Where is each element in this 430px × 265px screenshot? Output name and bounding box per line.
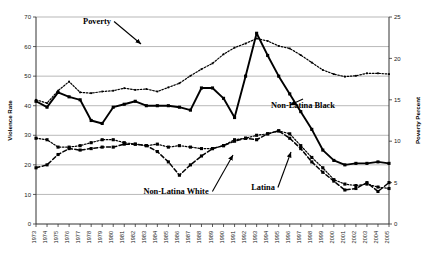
plot-area	[36, 17, 389, 224]
y-tick-label-right: 10	[394, 138, 401, 144]
series-marker-non-latina-white	[387, 187, 390, 190]
series-marker-non-latina-black	[90, 119, 93, 122]
x-tick-label: 1974	[42, 231, 48, 243]
x-tick-label: 1983	[141, 231, 147, 243]
x-tick-label: 1995	[274, 231, 280, 243]
x-tick-label: 1993	[252, 231, 258, 243]
x-tick-label: 2003	[362, 231, 368, 243]
x-tick-label: 1999	[318, 231, 324, 243]
x-tick-label: 1977	[75, 231, 81, 243]
x-tick-label: 2002	[351, 231, 357, 243]
series-marker-poverty	[355, 75, 357, 77]
series-marker-latina	[321, 171, 324, 174]
series-marker-non-latina-white	[255, 134, 258, 137]
series-marker-non-latina-black	[376, 160, 379, 163]
series-marker-non-latina-black	[332, 159, 335, 162]
y-tick-label-right: 5	[394, 180, 398, 186]
x-tick-label: 1994	[263, 231, 269, 243]
series-marker-latina	[178, 174, 181, 177]
series-marker-latina	[145, 144, 148, 147]
series-marker-non-latina-black	[343, 163, 346, 166]
y-tick-label-left: 20	[24, 162, 31, 168]
series-marker-non-latina-black	[211, 86, 214, 89]
y-tick-label-left: 10	[24, 192, 31, 198]
series-marker-latina	[112, 146, 115, 149]
series-marker-poverty	[212, 62, 214, 64]
series-marker-non-latina-black	[123, 103, 126, 106]
series-marker-latina	[211, 147, 214, 150]
series-marker-non-latina-black	[79, 98, 82, 101]
series-marker-poverty	[68, 81, 70, 83]
series-marker-poverty	[167, 86, 169, 88]
series-marker-latina	[365, 181, 368, 184]
series-marker-poverty	[278, 45, 280, 47]
x-tick-label: 2001	[340, 231, 346, 243]
series-marker-latina	[200, 154, 203, 157]
x-tick-label: 1988	[196, 231, 202, 243]
series-marker-non-latina-white	[79, 144, 82, 147]
series-marker-non-latina-black	[288, 92, 291, 95]
series-marker-non-latina-black	[233, 116, 236, 119]
annotation-label-non-latina-white: Non-Latina White	[143, 187, 209, 196]
series-marker-poverty	[46, 102, 48, 104]
series-marker-poverty	[289, 48, 291, 50]
x-tick-label: 1980	[108, 231, 114, 243]
series-marker-non-latina-black	[68, 95, 71, 98]
series-marker-poverty	[267, 40, 269, 42]
series-marker-non-latina-black	[200, 86, 203, 89]
series-marker-non-latina-white	[57, 146, 60, 149]
series-marker-non-latina-black	[277, 75, 280, 78]
series-marker-latina	[233, 140, 236, 143]
series-marker-poverty	[156, 91, 158, 93]
series-marker-latina	[45, 163, 48, 166]
series-marker-latina	[343, 188, 346, 191]
y-tick-label-right: 15	[394, 97, 401, 103]
series-marker-non-latina-white	[167, 146, 170, 149]
y-axis-title-right: Poverty Percent	[414, 97, 421, 144]
series-marker-latina	[189, 163, 192, 166]
x-tick-label: 1979	[97, 231, 103, 243]
series-marker-non-latina-black	[101, 122, 104, 125]
series-marker-non-latina-black	[255, 32, 258, 35]
x-tick-label: 2000	[329, 231, 335, 243]
series-marker-latina	[387, 181, 390, 184]
chart-canvas: 0102030405060700510152025197319741975197…	[0, 0, 430, 265]
x-tick-label: 1981	[119, 231, 125, 243]
series-marker-non-latina-black	[354, 162, 357, 165]
series-marker-latina	[299, 147, 302, 150]
series-marker-non-latina-black	[34, 100, 37, 103]
series-marker-latina	[123, 143, 126, 146]
violence-rate-poverty-chart: 0102030405060700510152025197319741975197…	[0, 0, 430, 265]
series-marker-non-latina-black	[178, 106, 181, 109]
series-marker-non-latina-black	[145, 104, 148, 107]
series-marker-latina	[332, 180, 335, 183]
series-marker-non-latina-black	[112, 106, 115, 109]
series-marker-latina	[79, 149, 82, 152]
series-marker-non-latina-white	[354, 184, 357, 187]
x-tick-label: 1986	[174, 231, 180, 243]
series-marker-non-latina-white	[310, 156, 313, 159]
y-tick-label-left: 50	[24, 73, 31, 79]
series-marker-latina	[34, 166, 37, 169]
series-marker-poverty	[134, 89, 136, 91]
series-marker-non-latina-white	[189, 146, 192, 149]
y-tick-label-left: 40	[24, 103, 31, 109]
series-marker-latina	[376, 190, 379, 193]
x-tick-label: 1992	[241, 231, 247, 243]
series-marker-non-latina-white	[112, 138, 115, 141]
series-marker-poverty	[311, 62, 313, 64]
series-marker-poverty	[112, 90, 114, 92]
series-marker-non-latina-black	[299, 110, 302, 113]
x-tick-label: 1989	[208, 231, 214, 243]
series-marker-poverty	[90, 92, 92, 94]
series-marker-poverty	[79, 91, 81, 93]
series-marker-latina	[255, 138, 258, 141]
x-tick-label: 2004	[373, 231, 379, 243]
annotation-label-poverty: Poverty	[83, 17, 112, 26]
x-tick-label: 1987	[185, 231, 191, 243]
series-marker-poverty	[145, 88, 147, 90]
series-marker-non-latina-white	[101, 138, 104, 141]
series-marker-poverty	[333, 73, 335, 75]
x-tick-label: 1976	[64, 231, 70, 243]
y-tick-label-left: 0	[28, 221, 32, 227]
